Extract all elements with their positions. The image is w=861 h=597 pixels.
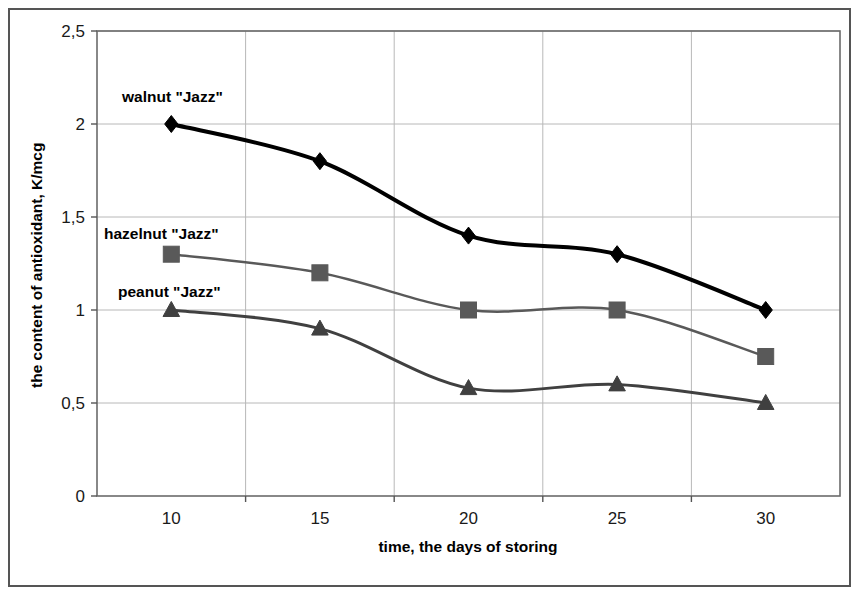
y-tick-label: 2 xyxy=(76,115,85,134)
data-point-marker-square xyxy=(609,302,625,318)
data-point-marker-square xyxy=(461,302,477,318)
x-axis-tick-labels: 1015202530 xyxy=(162,509,775,528)
x-tick-label: 10 xyxy=(162,509,181,528)
y-tick-label: 1 xyxy=(76,301,85,320)
x-tick-label: 15 xyxy=(310,509,329,528)
series-annotations: walnut "Jazz"hazelnut "Jazz"peanut "Jazz… xyxy=(104,88,223,300)
series-lines xyxy=(171,124,765,403)
data-point-marker-square xyxy=(312,265,328,281)
x-axis-title: time, the days of storing xyxy=(378,538,557,555)
x-tick-label: 30 xyxy=(756,509,775,528)
data-point-marker-diamond xyxy=(759,302,772,319)
series-label: walnut "Jazz" xyxy=(121,88,223,105)
data-point-marker-diamond xyxy=(165,116,178,133)
y-axis-tick-labels: 00,511,522,5 xyxy=(61,22,85,506)
y-tick-label: 2,5 xyxy=(61,22,85,41)
x-tick-label: 20 xyxy=(459,509,478,528)
y-tick-label: 1,5 xyxy=(61,208,85,227)
series-label: hazelnut "Jazz" xyxy=(104,225,219,242)
chart-figure: 00,511,522,5 1015202530 walnut "Jazz"haz… xyxy=(0,0,861,597)
y-tick-label: 0,5 xyxy=(61,394,85,413)
data-point-marker-diamond xyxy=(610,246,623,263)
data-point-marker-square xyxy=(758,349,774,365)
data-point-marker-diamond xyxy=(313,153,326,170)
data-point-marker-triangle xyxy=(163,301,180,316)
series-label: peanut "Jazz" xyxy=(118,283,221,300)
data-point-marker-square xyxy=(163,246,179,262)
y-axis-title: the content of antioxidant, K/mcg xyxy=(28,143,45,388)
line-chart: 00,511,522,5 1015202530 walnut "Jazz"haz… xyxy=(0,0,861,597)
data-point-marker-diamond xyxy=(462,227,475,244)
y-tick-label: 0 xyxy=(76,487,85,506)
x-tick-label: 25 xyxy=(608,509,627,528)
